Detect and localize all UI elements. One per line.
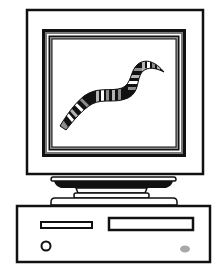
stand-top-plate <box>51 177 176 181</box>
drive-bay <box>109 218 193 230</box>
monitor <box>27 10 203 174</box>
stand-foot <box>51 198 177 205</box>
power-button <box>42 242 51 251</box>
computer-illustration <box>0 0 224 273</box>
case <box>17 206 210 262</box>
power-led <box>180 246 190 253</box>
system-unit <box>17 206 210 262</box>
stand-collar <box>54 181 173 188</box>
monitor-stand <box>51 177 177 205</box>
floppy-slot <box>41 222 92 228</box>
